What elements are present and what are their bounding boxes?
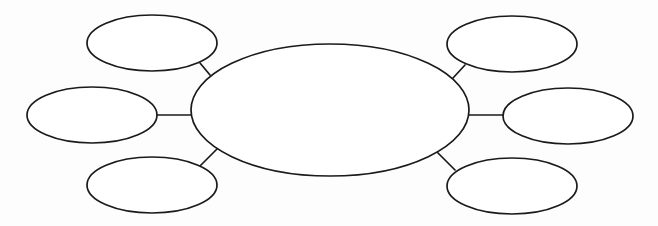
branch-node-top-left	[87, 15, 217, 71]
branch-node-middle-left	[27, 87, 157, 143]
branch-ellipse-middle-right	[503, 88, 633, 144]
connector-top-left	[200, 63, 210, 75]
branch-ellipse-top-right	[447, 16, 577, 72]
branch-ellipse-bottom-right	[447, 158, 577, 214]
center-ellipse	[191, 44, 469, 176]
branch-node-bottom-left	[87, 157, 217, 213]
center-node	[191, 44, 469, 176]
branch-node-top-right	[447, 16, 577, 72]
branch-ellipse-bottom-left	[87, 157, 217, 213]
diagram-canvas	[0, 0, 658, 226]
branch-node-middle-right	[503, 88, 633, 144]
bubble-map-diagram	[0, 0, 658, 226]
connector-bottom-left	[200, 148, 218, 166]
branch-ellipse-top-left	[87, 15, 217, 71]
branch-node-bottom-right	[447, 158, 577, 214]
connector-top-right	[453, 65, 465, 78]
connector-bottom-right	[437, 152, 455, 170]
branch-ellipse-middle-left	[27, 87, 157, 143]
